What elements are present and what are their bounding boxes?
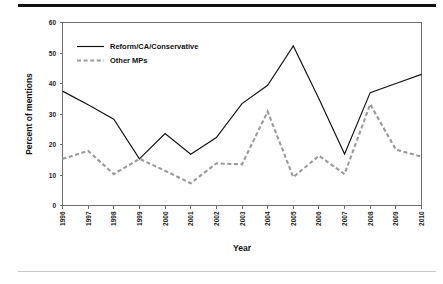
x-tick-label: 2001 xyxy=(187,211,194,226)
y-tick-label: 20 xyxy=(49,141,57,148)
legend-label-reform-ca-conservative: Reform/CA/Conservative xyxy=(110,42,198,51)
x-tick-label: 2009 xyxy=(392,211,399,226)
x-tick-label: 2007 xyxy=(341,211,348,226)
y-tick-label: 30 xyxy=(49,111,57,118)
x-tick-label: 2006 xyxy=(315,211,322,226)
x-tick-label: 2000 xyxy=(162,211,169,226)
x-tick-label: 2008 xyxy=(367,211,374,226)
chart-plot-area: 0 10 20 30 40 50 60 Percent of mentions … xyxy=(0,0,443,284)
y-tick-label: 40 xyxy=(49,80,57,87)
y-tick-label: 50 xyxy=(49,50,57,57)
x-tick-label: 1997 xyxy=(85,211,92,226)
x-tick-label: 2003 xyxy=(239,211,246,226)
series-line-other-mps xyxy=(63,104,422,183)
legend-label-other-mps: Other MPs xyxy=(110,56,148,65)
y-tick-label: 0 xyxy=(52,202,56,209)
x-axis-tick-labels: 1996199719981999200020012002200320042005… xyxy=(59,211,425,226)
x-tick-label: 2010 xyxy=(418,211,425,226)
x-tick-label: 2005 xyxy=(290,211,297,226)
y-tick-label: 10 xyxy=(49,172,57,179)
y-axis-title: Percent of mentions xyxy=(24,73,34,155)
y-axis-tick-labels: 0 10 20 30 40 50 60 xyxy=(49,19,57,209)
x-tick-label: 1996 xyxy=(59,211,66,226)
x-tick-label: 1998 xyxy=(110,211,117,226)
y-tick-label: 60 xyxy=(49,19,57,26)
x-tick-label: 2002 xyxy=(213,211,220,226)
x-tick-label: 2004 xyxy=(264,211,271,226)
x-axis-title: Year xyxy=(233,243,252,253)
line-chart-svg: 0 10 20 30 40 50 60 Percent of mentions … xyxy=(0,0,443,284)
chart-legend: Reform/CA/Conservative Other MPs xyxy=(77,42,198,65)
figure-container: 0 10 20 30 40 50 60 Percent of mentions … xyxy=(0,0,443,284)
x-tick-label: 1999 xyxy=(136,211,143,226)
